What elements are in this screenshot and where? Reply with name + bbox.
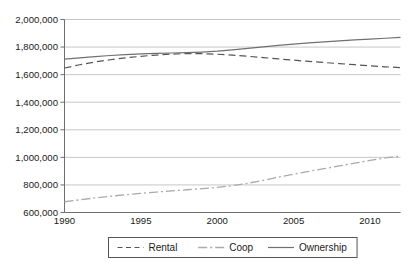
y-axis-tick-label: 800,000	[23, 179, 58, 190]
chart-canvas: 600,000800,0001,000,0001,200,0001,400,00…	[0, 0, 414, 266]
y-axis-tick-label: 600,000	[23, 207, 58, 218]
y-axis-tick-label: 1,400,000	[15, 97, 58, 108]
x-axis-tick-label: 2000	[207, 215, 228, 226]
chart-legend: RentalCoopOwnership	[109, 238, 358, 258]
x-axis-tick-label: 2010	[359, 215, 380, 226]
x-axis-labels-group: 19901995200020052010	[54, 215, 381, 226]
line-chart: 600,000800,0001,000,0001,200,0001,400,00…	[0, 0, 414, 266]
y-axis-tick-label: 1,800,000	[15, 41, 58, 52]
y-axis-tick-label: 1,000,000	[15, 152, 58, 163]
legend-label-ownership: Ownership	[299, 242, 347, 253]
axes-group	[65, 20, 401, 213]
legend-label-rental: Rental	[149, 242, 178, 253]
y-axis-tick-label: 1,600,000	[15, 69, 58, 80]
gridlines-group	[65, 20, 401, 213]
series-line-ownership	[65, 37, 401, 59]
x-axis-tick-label: 1995	[130, 215, 151, 226]
x-axis-tick-label: 1990	[54, 215, 75, 226]
x-axis-tick-label: 2005	[283, 215, 304, 226]
legend-label-coop: Coop	[229, 242, 253, 253]
y-axis-tick-label: 1,200,000	[15, 124, 58, 135]
series-line-coop	[65, 156, 401, 202]
series-group	[65, 37, 401, 201]
y-axis-labels-group: 600,000800,0001,000,0001,200,0001,400,00…	[15, 14, 64, 218]
y-axis-tick-label: 2,000,000	[15, 14, 58, 25]
